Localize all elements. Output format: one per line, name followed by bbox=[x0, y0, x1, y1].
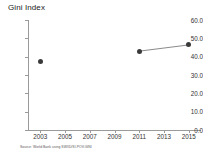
gini-index-chart: Gini Index 60.050.040.030.020.010.00.0 2… bbox=[0, 0, 203, 156]
data-point bbox=[38, 59, 43, 64]
data-point bbox=[137, 49, 142, 54]
series-line-layer bbox=[0, 0, 203, 156]
source-note: Source: World Bank using SWIID/SI.POV.GI… bbox=[20, 145, 92, 150]
series-segment bbox=[139, 45, 188, 51]
